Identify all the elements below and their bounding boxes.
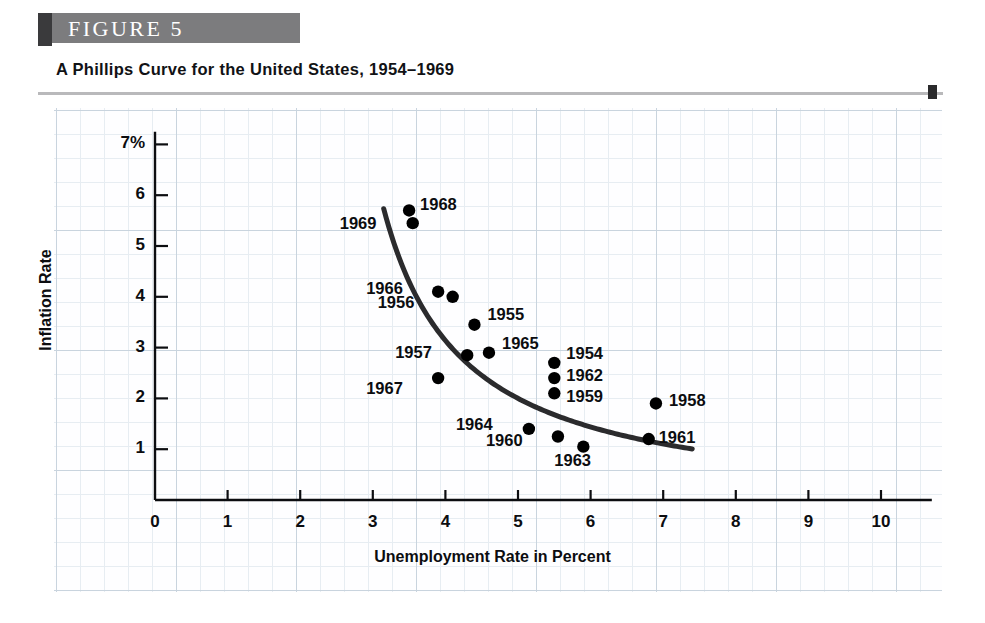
header-divider-endcap bbox=[928, 85, 937, 99]
header-divider bbox=[38, 92, 943, 95]
graph-paper-background bbox=[54, 108, 942, 592]
figure-badge-label: FIGURE 5 bbox=[68, 16, 184, 42]
y-axis-title: Inflation Rate bbox=[37, 249, 55, 350]
figure-badge-accent bbox=[38, 13, 52, 46]
figure-title: A Phillips Curve for the United States, … bbox=[56, 60, 454, 79]
page-bottom-margin bbox=[0, 600, 985, 623]
figure-badge: FIGURE 5 bbox=[38, 13, 300, 46]
